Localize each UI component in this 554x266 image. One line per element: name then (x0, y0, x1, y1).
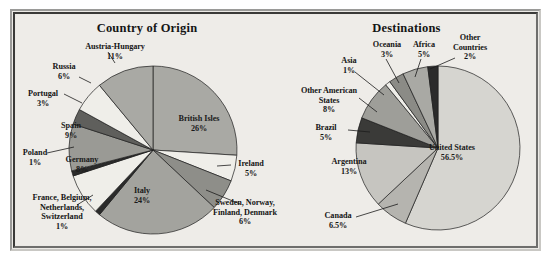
label-africa-pct: 5% (406, 50, 442, 60)
label-brazil: Brazil 5% (303, 123, 349, 142)
label-portugal-name: Portugal (28, 89, 58, 98)
label-russia-pct: 6% (34, 72, 94, 82)
label-france-line2: Netherlands, (2, 203, 122, 213)
chart-country-of-origin: Country of Origin Austria-Hungary 11% Ru… (16, 15, 278, 245)
label-british-isles-name: British Isles (179, 114, 220, 123)
label-brazil-pct: 5% (303, 133, 349, 143)
label-france-pct: 1% (2, 222, 122, 232)
label-russia-name: Russia (53, 62, 76, 71)
label-other-american-states: Other American States 8% (288, 86, 370, 115)
label-asia-name: Asia (341, 56, 356, 65)
pie-slice (153, 66, 237, 155)
label-nordic-line1: Sweden, Norway, (215, 198, 275, 207)
label-ireland-name: Ireland (238, 159, 263, 168)
label-argentina-name: Argentina (331, 157, 366, 166)
label-africa: Africa 5% (406, 40, 442, 59)
label-africa-name: Africa (413, 40, 435, 49)
label-france-line1: France, Belgium, (32, 193, 91, 202)
label-spain-pct: 9% (49, 131, 93, 141)
label-germany-pct: 8% (53, 165, 111, 175)
label-france-line3: Switzerland (2, 212, 122, 222)
label-ireland-pct: 5% (227, 169, 275, 179)
label-austria-hungary-pct: 11% (60, 52, 170, 62)
chart-destinations: Destinations Oceania 3% Africa 5% Other … (278, 15, 535, 245)
label-italy: Italy 24% (121, 186, 163, 205)
label-canada: Canada 6.5% (314, 211, 362, 230)
label-united-states: United States 56.5% (418, 143, 486, 162)
label-italy-pct: 24% (121, 196, 163, 206)
label-british-isles: British Isles 26% (166, 114, 232, 133)
label-russia: Russia 6% (34, 62, 94, 81)
label-oceania: Oceania 3% (363, 40, 411, 59)
label-poland-name: Poland (23, 148, 47, 157)
label-other-countries-line1: Other (460, 33, 481, 42)
label-canada-name: Canada (324, 211, 351, 220)
label-united-states-pct: 56.5% (418, 153, 486, 163)
label-germany-name: Germany (66, 155, 99, 164)
label-other-countries-line2: Countries (439, 43, 501, 53)
label-other-american-line1: Other American (301, 86, 357, 95)
label-ireland: Ireland 5% (227, 159, 275, 178)
label-germany: Germany 8% (53, 155, 111, 174)
label-portugal: Portugal 3% (12, 89, 74, 108)
label-asia-pct: 1% (332, 66, 366, 76)
label-brazil-name: Brazil (315, 123, 336, 132)
label-asia: Asia 1% (332, 56, 366, 75)
label-spain-name: Spain (61, 121, 81, 130)
label-portugal-pct: 3% (12, 99, 74, 109)
label-other-countries: Other Countries 2% (439, 33, 501, 62)
label-oceania-pct: 3% (363, 50, 411, 60)
label-austria-hungary-name: Austria-Hungary (85, 42, 145, 51)
label-canada-pct: 6.5% (314, 221, 362, 231)
label-argentina-pct: 13% (320, 167, 378, 177)
label-oceania-name: Oceania (373, 40, 401, 49)
label-british-isles-pct: 26% (166, 124, 232, 134)
figure-root: Country of Origin Austria-Hungary 11% Ru… (0, 0, 554, 266)
label-other-american-line2: States (288, 96, 370, 106)
label-argentina: Argentina 13% (320, 157, 378, 176)
label-united-states-name: United States (429, 143, 475, 152)
label-france-belgium-netherlands-switzerland: France, Belgium, Netherlands, Switzerlan… (2, 193, 122, 232)
label-italy-name: Italy (134, 186, 150, 195)
label-austria-hungary: Austria-Hungary 11% (60, 42, 170, 61)
label-other-countries-pct: 2% (439, 52, 501, 62)
label-other-american-pct: 8% (288, 105, 370, 115)
label-spain: Spain 9% (49, 121, 93, 140)
